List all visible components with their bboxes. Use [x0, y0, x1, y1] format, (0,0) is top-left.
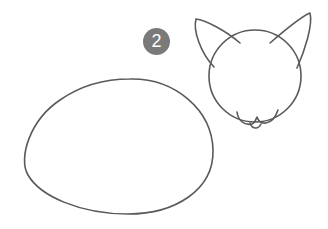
cat-sketch: [0, 0, 328, 229]
right-ear: [270, 13, 311, 68]
body-oval: [25, 79, 213, 214]
head-circle: [209, 30, 301, 122]
left-ear: [195, 19, 240, 67]
